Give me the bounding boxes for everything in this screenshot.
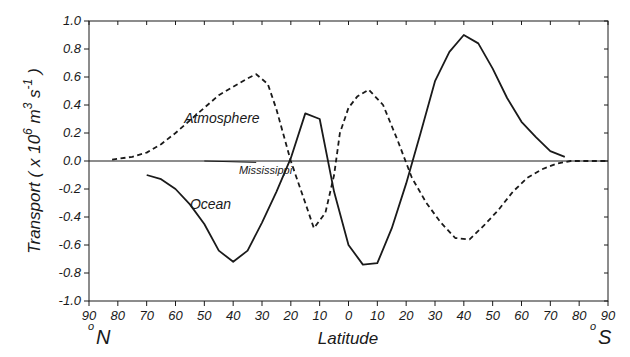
svg-text:Transport ( x 106 m3 s-1 ): Transport ( x 106 m3 s-1 ) <box>21 68 44 253</box>
y-tick-label: -0.2 <box>59 181 82 196</box>
x-tick-label: 40 <box>457 308 472 323</box>
x-tick-label: 90 <box>601 308 616 323</box>
x-tick-label: 70 <box>139 308 154 323</box>
y-tick-label: 1.0 <box>63 13 82 28</box>
x-tick-label: 80 <box>572 308 587 323</box>
y-tick-label: 0.2 <box>63 125 82 140</box>
annotation-mississippi: Mississippi <box>239 164 293 176</box>
x-tick-label: 10 <box>312 308 327 323</box>
svg-text:N: N <box>96 326 111 348</box>
transport-chart: 1.00.80.60.40.20.0-0.2-0.4-0.6-0.8-1.0 9… <box>0 0 630 357</box>
y-tick-label: -0.4 <box>59 209 81 224</box>
series-ocean <box>147 35 565 265</box>
annotation-atmosphere: Atmosphere <box>183 110 260 126</box>
y-tick-label: -0.6 <box>59 237 82 252</box>
x-tick-label: 0 <box>345 308 353 323</box>
x-tick-label: 80 <box>111 308 126 323</box>
y-tick-label: 0.6 <box>63 69 82 84</box>
y-tick-label: 0.8 <box>63 41 82 56</box>
y-tick-label: -0.8 <box>59 265 82 280</box>
annotation-ocean: Ocean <box>190 196 231 212</box>
x-tick-label: 30 <box>428 308 443 323</box>
y-tick-label: -1.0 <box>59 293 82 308</box>
x-tick-label: 10 <box>370 308 385 323</box>
y-tick-label: 0.4 <box>63 97 81 112</box>
x-tick-label: 50 <box>197 308 212 323</box>
x-tick-label: 60 <box>168 308 183 323</box>
north-label: o N <box>88 320 111 348</box>
svg-text:o: o <box>88 320 94 332</box>
x-tick-label: 70 <box>543 308 558 323</box>
y-tick-label: 0.0 <box>63 153 82 168</box>
x-tick-label: 60 <box>514 308 529 323</box>
x-tick-label: 50 <box>485 308 500 323</box>
x-tick-label: 20 <box>398 308 414 323</box>
series-layer <box>112 35 608 265</box>
x-tick-label: 40 <box>226 308 241 323</box>
x-tick-label: 30 <box>255 308 270 323</box>
south-label: o S <box>590 320 612 348</box>
svg-text:o: o <box>590 320 596 332</box>
x-tick-label: 20 <box>283 308 299 323</box>
y-axis-title: Transport ( x 106 m3 s-1 ) <box>21 68 44 253</box>
svg-text:S: S <box>598 326 612 348</box>
series-atmosphere <box>112 74 608 239</box>
x-axis-title: Latitude <box>318 329 379 348</box>
